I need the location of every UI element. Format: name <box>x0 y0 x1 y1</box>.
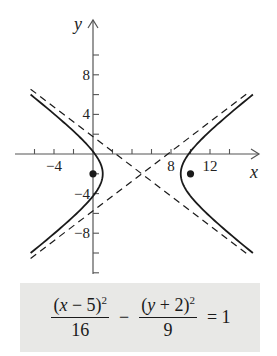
y-tick-label: −8 <box>74 225 90 241</box>
asymptote-line <box>31 94 247 259</box>
x-ticks <box>35 149 230 154</box>
fraction-2-denominator: 9 <box>164 318 173 341</box>
x-tick-label: 12 <box>203 158 218 174</box>
hyperbola-plot: −4812 84−4−8 x y <box>0 0 277 283</box>
y-axis-label: y <box>72 14 82 34</box>
numerator-rest: − 5) <box>67 295 101 315</box>
x-tick-label: −4 <box>46 158 62 174</box>
equation-rhs: = 1 <box>207 307 231 328</box>
fraction-2-numerator: (y + 2)2 <box>139 294 197 318</box>
fraction-1-denominator: 16 <box>71 318 89 341</box>
y-tick-label: 8 <box>83 67 91 83</box>
equation-box: (x − 5)2 16 − (y + 2)2 9 = 1 <box>20 283 260 352</box>
focus-points <box>89 170 194 177</box>
focus-point <box>187 170 194 177</box>
x-tick-label: 8 <box>167 158 175 174</box>
fraction-1: (x − 5)2 16 <box>51 294 109 341</box>
exponent: 2 <box>102 294 108 306</box>
y-tick-label: 4 <box>83 106 91 122</box>
y-ticks <box>93 55 99 273</box>
focus-point <box>89 170 96 177</box>
minus-operator: − <box>119 307 129 328</box>
fraction-1-numerator: (x − 5)2 <box>51 294 109 318</box>
numerator-rest: + 2) <box>155 295 189 315</box>
y-tick-label: −4 <box>74 186 90 202</box>
hyperbola-branches <box>31 95 253 254</box>
exponent: 2 <box>189 294 195 306</box>
x-axis-label: x <box>249 162 258 182</box>
fraction-2: (y + 2)2 9 <box>139 294 197 341</box>
